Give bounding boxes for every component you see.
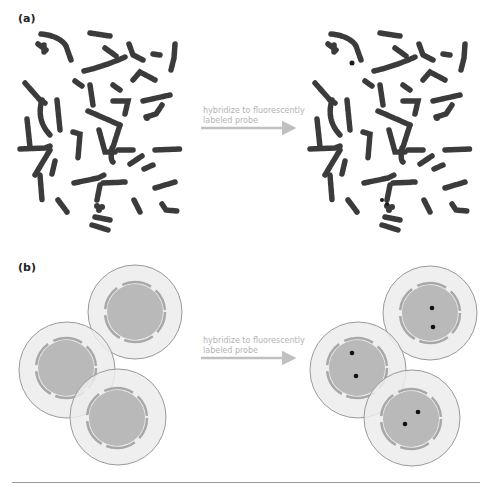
chromosome-spread-before <box>20 33 180 230</box>
probe-dot-icon <box>354 374 359 379</box>
cells-after <box>310 266 477 466</box>
probe-dot-icon <box>416 410 421 415</box>
probe-dot-icon <box>431 325 436 330</box>
probe-dot-icon <box>350 351 355 356</box>
probe-dot-icon <box>430 306 435 311</box>
cells-before <box>19 265 182 465</box>
bottom-divider <box>12 482 480 483</box>
cell <box>364 370 460 466</box>
chromosome-spread-after <box>310 33 470 230</box>
figure-canvas <box>0 0 494 487</box>
probe-dot-icon <box>403 422 408 427</box>
cell <box>70 369 166 465</box>
